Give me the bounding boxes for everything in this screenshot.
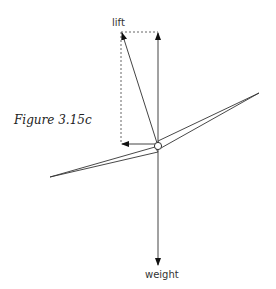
lift-label: lift <box>112 17 125 28</box>
resultant-lift-arrow <box>122 33 157 143</box>
force-diagram: lift weight Figure 3.15c <box>0 0 276 289</box>
weight-label: weight <box>145 269 179 280</box>
fuselage-pivot-circle <box>154 142 161 149</box>
figure-caption: Figure 3.15c <box>13 113 92 127</box>
